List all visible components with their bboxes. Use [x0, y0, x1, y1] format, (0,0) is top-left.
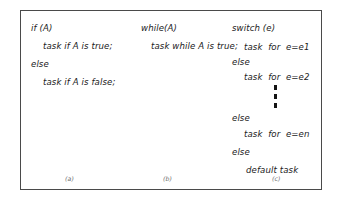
ellipsis-dot-1	[274, 85, 277, 90]
figure-container: if (A) task if A is true; else task if A…	[0, 0, 345, 202]
code-line-c-2: else	[232, 58, 250, 67]
caption-a: (a)	[65, 175, 74, 182]
code-line-c-7: default task	[246, 166, 298, 175]
code-line-a-2: else	[31, 60, 49, 69]
code-line-b-1: task while A is true;	[151, 42, 238, 51]
code-line-a-1: task if A is true;	[43, 42, 113, 51]
code-line-c-3: task for e=e2	[244, 73, 310, 82]
code-line-a-3: task if A is false;	[43, 78, 115, 87]
code-line-a-0: if (A)	[31, 24, 52, 33]
code-line-c-1: task for e=e1	[244, 43, 310, 52]
ellipsis-dot-3	[274, 103, 277, 108]
code-line-b-0: while(A)	[141, 24, 177, 33]
code-line-c-4: else	[232, 114, 250, 123]
caption-c: (c)	[272, 175, 281, 182]
caption-b: (b)	[163, 175, 172, 182]
code-line-c-5: task for e=en	[244, 130, 310, 139]
code-line-c-6: else	[232, 148, 250, 157]
code-line-c-0: switch (e)	[232, 24, 275, 33]
vertical-ellipsis-icon	[274, 85, 278, 111]
figure-frame: if (A) task if A is true; else task if A…	[20, 10, 322, 190]
ellipsis-dot-2	[274, 94, 277, 99]
